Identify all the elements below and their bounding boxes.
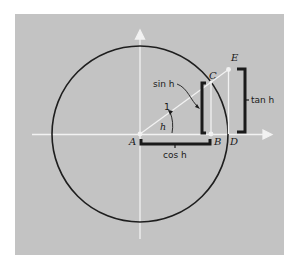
point-B bbox=[209, 132, 214, 137]
unit-circle-diagram: A B C D E 1 h sin h cos h tan h bbox=[0, 0, 297, 268]
label-tan: tan h bbox=[251, 95, 274, 105]
label-cos: cos h bbox=[163, 150, 187, 160]
label-A: A bbox=[128, 136, 136, 147]
label-D: D bbox=[229, 136, 238, 147]
label-B: B bbox=[213, 136, 221, 147]
point-A bbox=[138, 132, 143, 137]
label-C: C bbox=[209, 70, 217, 81]
label-radius: 1 bbox=[164, 101, 170, 112]
label-angle: h bbox=[160, 121, 166, 132]
point-E bbox=[226, 67, 231, 72]
label-sin: sin h bbox=[153, 79, 174, 89]
label-E: E bbox=[230, 52, 239, 63]
